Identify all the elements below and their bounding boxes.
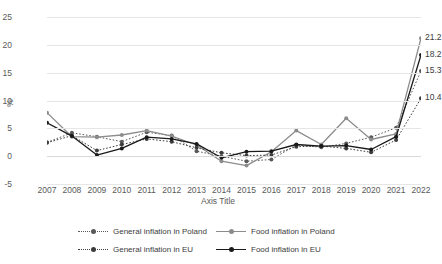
data-point	[245, 164, 249, 168]
data-label-10.4: 10.4	[425, 93, 442, 102]
legend-swatch-general-poland	[78, 227, 108, 236]
legend-swatch-food-eu	[216, 245, 246, 254]
x-tick-label-2017: 2017	[287, 186, 306, 195]
gridline-20	[47, 45, 421, 46]
legend-label-general-poland: General inflation in Poland	[113, 227, 207, 236]
data-point	[120, 133, 124, 137]
gridline-25	[47, 17, 421, 18]
legend-label-food-poland: Food inflation in Poland	[251, 227, 335, 236]
data-point	[344, 116, 348, 120]
gridline-5	[47, 128, 421, 129]
series-line	[47, 38, 421, 165]
data-point	[269, 158, 273, 162]
data-point	[269, 149, 273, 153]
data-point	[294, 143, 298, 147]
chart-legend: General inflation in Poland Food inflati…	[78, 222, 378, 258]
x-tick-label-2013: 2013	[187, 186, 206, 195]
legend-label-general-eu: General inflation in EU	[113, 245, 193, 254]
data-point	[419, 36, 421, 40]
x-tick-label-2007: 2007	[38, 186, 57, 195]
x-tick-label-2019: 2019	[337, 186, 356, 195]
data-point	[145, 135, 149, 139]
data-point	[120, 143, 124, 147]
x-tick-label-2009: 2009	[87, 186, 106, 195]
plot-area	[47, 17, 421, 184]
x-axis-title: Axis Title	[0, 196, 436, 206]
legend-item-general-poland[interactable]: General inflation in Poland	[78, 227, 216, 236]
data-point	[419, 53, 421, 57]
legend-marker-icon	[91, 229, 96, 234]
x-tick-label-2018: 2018	[312, 186, 331, 195]
data-point	[95, 135, 99, 139]
x-tick-label-2016: 2016	[262, 186, 281, 195]
data-label-18.2: 18.2	[425, 50, 442, 59]
data-point	[195, 142, 199, 146]
data-point	[170, 137, 174, 141]
y-tick-label-10: 10	[0, 97, 12, 106]
y-tick-label--5: -5	[0, 180, 12, 189]
x-tick-label-2011: 2011	[138, 186, 156, 195]
y-tick-label-15: 15	[0, 69, 12, 78]
data-point	[245, 150, 249, 154]
series-line	[47, 55, 421, 158]
data-point	[369, 148, 373, 152]
legend-item-food-eu[interactable]: Food inflation in EU	[216, 245, 378, 254]
legend-swatch-food-poland	[216, 227, 246, 236]
legend-marker-icon	[229, 229, 234, 234]
data-point	[369, 138, 373, 142]
data-point	[95, 149, 99, 153]
x-tick-label-2012: 2012	[162, 186, 181, 195]
legend-label-food-eu: Food inflation in EU	[251, 245, 321, 254]
x-tick-label-2022: 2022	[412, 186, 431, 195]
x-tick-label-2021: 2021	[387, 186, 406, 195]
series-food-inflation-in-eu	[47, 53, 421, 160]
data-point	[195, 146, 199, 150]
series-line	[47, 71, 421, 161]
y-tick-label-25: 25	[0, 13, 12, 22]
data-point	[220, 151, 224, 155]
gridline-15	[47, 73, 421, 74]
data-point	[319, 144, 323, 148]
legend-marker-icon	[229, 247, 234, 252]
data-point	[70, 134, 74, 138]
legend-marker-icon	[91, 247, 96, 252]
data-point	[120, 146, 124, 150]
data-point	[245, 159, 249, 163]
data-point	[344, 144, 348, 148]
legend-item-general-eu[interactable]: General inflation in EU	[78, 245, 216, 254]
y-tick-label-5: 5	[0, 124, 12, 133]
legend-swatch-general-eu	[78, 245, 108, 254]
x-tick-label-2020: 2020	[362, 186, 381, 195]
gridline-10	[47, 101, 421, 102]
y-tick-label-20: 20	[0, 41, 12, 50]
x-tick-label-2014: 2014	[212, 186, 231, 195]
data-label-21.2: 21.2	[425, 33, 442, 42]
y-tick-label-0: 0	[0, 152, 12, 161]
x-tick-label-2015: 2015	[237, 186, 256, 195]
x-tick-label-2008: 2008	[62, 186, 81, 195]
x-tick-label-2010: 2010	[112, 186, 131, 195]
data-point	[394, 135, 398, 139]
legend-item-food-poland[interactable]: Food inflation in Poland	[216, 227, 378, 236]
gridline-0	[47, 156, 421, 157]
series-line	[47, 98, 421, 155]
data-label-15.3: 15.3	[425, 66, 442, 75]
